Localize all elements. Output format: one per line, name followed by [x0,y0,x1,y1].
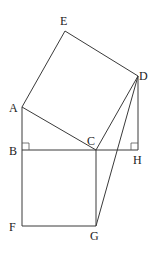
segment-AE [22,31,65,107]
label-D: D [139,69,148,83]
label-B: B [9,144,17,158]
label-A: A [9,101,18,115]
right-angle-mark-H [131,143,138,150]
segment-DG [96,76,138,226]
label-F: F [9,220,16,234]
diagram-canvas: E D A C B H F G [0,0,155,258]
right-angle-mark-B [22,143,29,150]
segment-CA [22,107,96,150]
geometry-diagram: E D A C B H F G [0,0,155,258]
label-H: H [133,153,142,167]
label-G: G [90,229,99,243]
segment-ED [65,31,138,76]
segment-DC [96,76,138,150]
label-C: C [87,134,95,148]
label-E: E [60,14,67,28]
